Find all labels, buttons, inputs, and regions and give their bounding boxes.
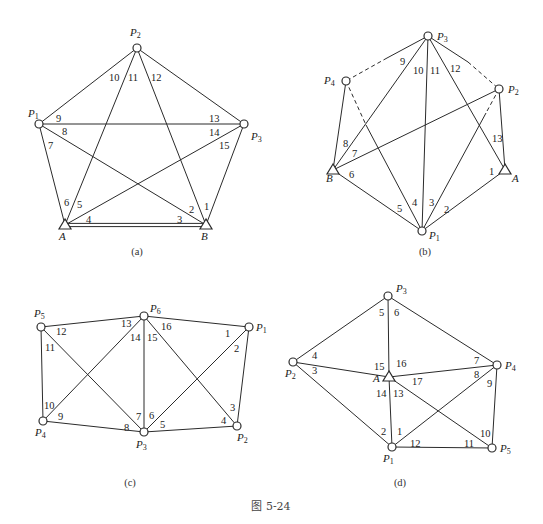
angle-number-label: 12 [56, 326, 67, 337]
point-subscript: 5 [41, 312, 45, 321]
point-subscript: 4 [512, 364, 516, 373]
subfigure-caption-a: (a) [131, 246, 143, 258]
point-subscript: 3 [258, 135, 262, 144]
edge [39, 124, 206, 225]
point-subscript: 2 [515, 88, 519, 97]
station-circle-icon [488, 444, 496, 452]
point-subscript: 3 [444, 35, 448, 44]
angle-number-label: 7 [352, 148, 357, 159]
edge [293, 296, 388, 362]
station-circle-icon [140, 428, 148, 436]
point-subscript: 1 [35, 112, 39, 121]
point-label: P3 [395, 282, 407, 296]
angle-number-label: 11 [464, 438, 474, 449]
point-label: P5 [33, 307, 45, 321]
subfigure-caption-b: (b) [419, 246, 432, 258]
angle-number-label: 9 [487, 378, 492, 389]
angle-number-label: 3 [429, 197, 434, 208]
edge [41, 327, 144, 432]
angle-number-label: 13 [209, 113, 220, 124]
point-label: A [58, 230, 66, 242]
edge [492, 365, 497, 448]
point-label: P3 [436, 30, 448, 44]
angle-number-label: 2 [444, 204, 449, 215]
angle-number-label: 10 [480, 428, 491, 439]
edge [65, 48, 137, 225]
angle-number-label: 12 [151, 72, 162, 83]
angle-number-label: 1 [489, 166, 494, 177]
edge [144, 316, 237, 426]
edge [137, 48, 244, 124]
angle-number-label: 11 [128, 72, 138, 83]
angle-number-label: 6 [349, 169, 354, 180]
nodes-layer: P2P1P3ABP3P4P2BAP1P5P6P1P4P3P2P3P2AP4P1P… [27, 26, 519, 466]
angle-number-label: 3 [312, 365, 317, 376]
diagram-c-angle-labels: 12345678910111213141516 [44, 318, 239, 433]
angle-number-label: 10 [413, 65, 424, 76]
point-label: P3 [250, 130, 262, 144]
angle-number-label: 10 [44, 400, 55, 411]
angle-number-label: 4 [412, 197, 418, 208]
angle-number-label: 14 [130, 332, 141, 343]
point-label: B [201, 230, 208, 242]
point-label: A [511, 172, 519, 184]
edge [65, 124, 244, 225]
station-circle-icon [493, 361, 501, 369]
dashed-edge [346, 58, 387, 81]
point-subscript: 1 [390, 457, 394, 466]
angle-number-label: 6 [64, 197, 69, 208]
point-subscript: 5 [507, 447, 511, 456]
angle-number-label: 13 [121, 318, 132, 329]
angle-number-label: 16 [396, 358, 407, 369]
angle-number-label: 10 [109, 72, 120, 83]
point-subscript: 4 [42, 431, 46, 440]
point-label: P1 [255, 321, 267, 335]
point-subscript: 4 [331, 79, 335, 88]
station-circle-icon [424, 32, 432, 40]
figure-caption: 图 5-24 [251, 500, 290, 513]
angle-number-label: 7 [474, 355, 479, 366]
edge [387, 36, 428, 58]
angle-number-label: 6 [149, 410, 154, 421]
point-label: P1 [27, 107, 39, 121]
diagram-d-edges [293, 296, 497, 448]
point-label: P6 [149, 302, 161, 316]
angle-number-label: 2 [234, 343, 239, 354]
edge [333, 81, 346, 170]
edge [428, 36, 468, 62]
angle-number-label: 9 [56, 113, 61, 124]
angle-number-label: 3 [230, 402, 235, 413]
edge [388, 296, 389, 377]
station-circle-icon [245, 323, 253, 331]
angle-number-label: 2 [381, 426, 386, 437]
angle-number-label: 12 [450, 63, 461, 74]
angle-number-label: 12 [410, 438, 421, 449]
subfigure-caption-d: (d) [394, 477, 407, 489]
edge [422, 170, 505, 231]
known-point-triangle-icon [59, 219, 71, 229]
angle-number-label: 15 [147, 332, 158, 343]
station-circle-icon [388, 443, 396, 451]
diagram-b-nodes: P3P4P2BAP1 [323, 30, 519, 243]
angle-number-label: 8 [343, 138, 348, 149]
angle-number-label: 8 [124, 422, 129, 433]
point-subscript: 6 [157, 307, 161, 316]
edge [41, 327, 43, 421]
angle-number-label: 7 [48, 140, 53, 151]
point-label: P3 [135, 438, 147, 452]
station-circle-icon [37, 323, 45, 331]
angle-number-label: 9 [400, 56, 405, 67]
angle-number-label: 8 [62, 126, 67, 137]
edge [39, 48, 137, 124]
angle-number-label: 14 [376, 388, 387, 399]
angle-number-label: 7 [136, 411, 141, 422]
edge [333, 89, 499, 170]
station-circle-icon [133, 44, 141, 52]
edge [144, 426, 237, 432]
angle-number-label: 6 [394, 307, 399, 318]
station-circle-icon [35, 120, 43, 128]
angle-number-label: 5 [397, 203, 402, 214]
angle-number-label: 9 [58, 411, 63, 422]
station-circle-icon [233, 422, 241, 430]
angle-number-label: 1 [204, 201, 209, 212]
